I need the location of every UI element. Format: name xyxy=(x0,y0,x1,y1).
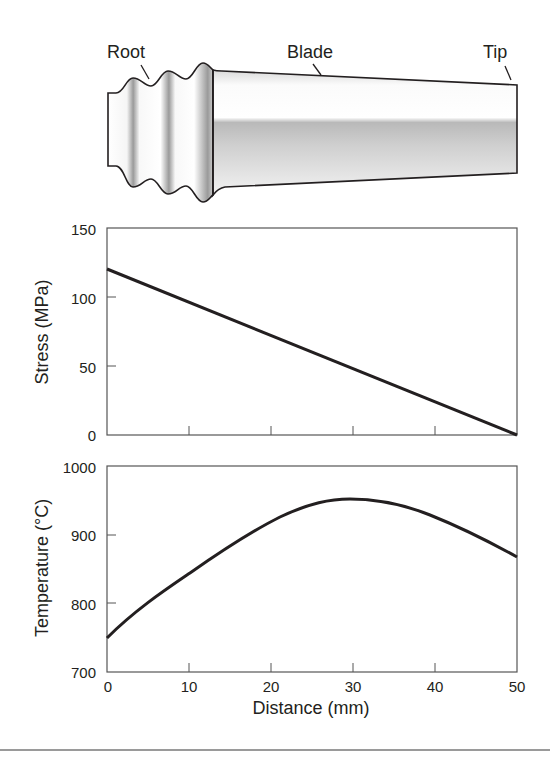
stress-line xyxy=(107,269,517,435)
xtick-20: 20 xyxy=(263,678,280,695)
temp-ytick-900: 900 xyxy=(71,527,96,544)
temperature-ylabel: Temperature (°C) xyxy=(32,499,52,637)
root-shape xyxy=(108,63,213,202)
stress-ytick-100: 100 xyxy=(71,290,96,307)
stress-ytick-150: 150 xyxy=(71,221,96,238)
xtick-40: 40 xyxy=(427,678,444,695)
xtick-50: 50 xyxy=(509,678,526,695)
stress-ytick-0: 0 xyxy=(88,427,96,444)
blade-diagram: Root Blade Tip xyxy=(107,42,517,202)
root-label: Root xyxy=(107,42,145,62)
temp-ytick-700: 700 xyxy=(71,664,96,681)
temperature-chart: 1000 900 800 700 Temperature (°C) 0 10 2… xyxy=(32,459,525,718)
temperature-plot-frame xyxy=(107,466,517,672)
x-axis-label: Distance (mm) xyxy=(252,698,369,718)
blade-shape xyxy=(213,70,517,195)
tip-label: Tip xyxy=(483,42,507,62)
temp-ytick-1000: 1000 xyxy=(63,459,96,476)
xtick-10: 10 xyxy=(181,678,198,695)
bottom-divider xyxy=(0,749,550,751)
stress-ylabel: Stress (MPa) xyxy=(32,279,52,384)
stress-chart: 150 100 50 0 Stress (MPa) xyxy=(32,221,517,444)
stress-plot-frame xyxy=(107,228,517,435)
temperature-line xyxy=(107,499,517,638)
xtick-0: 0 xyxy=(104,678,112,695)
figure: Root Blade Tip 150 100 50 0 Stress (MPa)… xyxy=(0,0,550,763)
temp-ytick-800: 800 xyxy=(71,596,96,613)
xtick-30: 30 xyxy=(345,678,362,695)
stress-ytick-50: 50 xyxy=(79,359,96,376)
blade-label: Blade xyxy=(287,42,333,62)
